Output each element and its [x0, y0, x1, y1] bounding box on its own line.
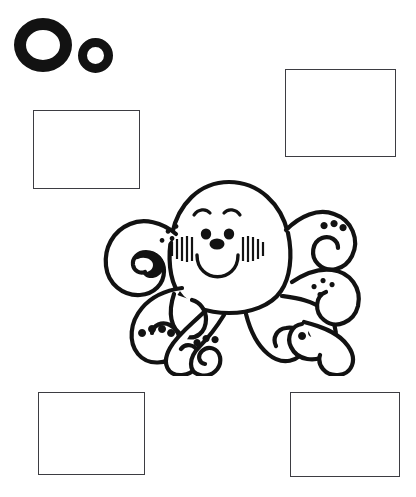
- octopus-eye-right: [224, 228, 234, 239]
- octopus-eye-left: [201, 228, 211, 239]
- lowercase-letter-o: [78, 38, 113, 73]
- letter-pair-Oo: [12, 14, 122, 78]
- octopus-tentacle-left-upper: [106, 221, 176, 295]
- worksheet-page: · · · ·: [0, 0, 416, 497]
- answer-box-bottom-left[interactable]: [38, 392, 145, 475]
- answer-box-bottom-right[interactable]: [290, 392, 400, 477]
- octopus-nose: [210, 238, 225, 249]
- answer-box-top-right[interactable]: [285, 69, 396, 157]
- octopus-svg: [96, 172, 368, 376]
- octopus-tentacle-right-upper: [286, 212, 355, 270]
- uppercase-letter-O: [14, 18, 72, 72]
- page-header-text: · · · ·: [0, 0, 416, 2]
- octopus-illustration: [96, 172, 368, 376]
- octopus-line-art: [106, 182, 359, 376]
